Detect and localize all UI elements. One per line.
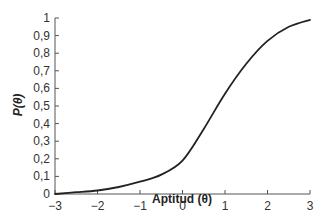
irt-curve-chart: 00,10,20,30,40,50,60,70,80,91 −3−2−10123… (0, 0, 326, 210)
x-tick-label: −3 (48, 199, 62, 210)
x-axis-title: Aptitud (θ) (152, 192, 212, 206)
y-tick-label: 0,8 (33, 46, 50, 60)
y-tick-label: 0,7 (33, 64, 50, 78)
x-tick-label: 2 (264, 199, 271, 210)
y-tick-label: 1 (43, 11, 50, 25)
x-tick-label: 1 (222, 199, 229, 210)
y-axis: 00,10,20,30,40,50,60,70,80,91 (33, 11, 59, 201)
y-tick-label: 0,5 (33, 99, 50, 113)
y-tick-label: 0,1 (33, 169, 50, 183)
x-tick-label: 3 (307, 199, 314, 210)
y-tick-label: 0,3 (33, 134, 50, 148)
y-axis-title: P(θ) (11, 94, 25, 117)
probability-curve (55, 20, 310, 194)
y-tick-label: 0,2 (33, 152, 50, 166)
x-tick-label: −2 (91, 199, 105, 210)
y-tick-label: 0,4 (33, 117, 50, 131)
y-tick-label: 0,6 (33, 81, 50, 95)
x-tick-label: −1 (133, 199, 147, 210)
y-tick-label: 0,9 (33, 29, 50, 43)
